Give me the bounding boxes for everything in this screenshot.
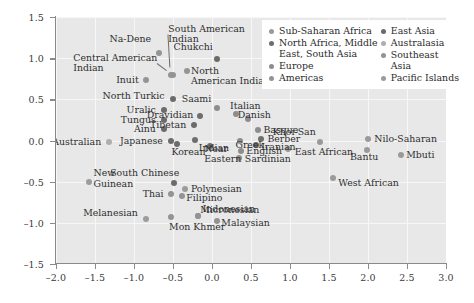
data-point-label: Danish: [238, 110, 271, 120]
x-axis-tick: [290, 264, 291, 269]
legend-entry: East Asia: [381, 25, 460, 36]
x-axis-tick-label: –1.5: [85, 272, 105, 283]
x-axis-tick: [56, 264, 57, 269]
y-axis-tick-label: –1.0: [14, 217, 44, 228]
y-axis-tick-label: 0.5: [14, 94, 44, 105]
legend-entry: Southeast Asia: [381, 49, 460, 71]
y-axis-tick: [50, 223, 55, 224]
x-axis-tick-label: 1.0: [282, 272, 297, 283]
x-axis-tick-label: 1.5: [321, 272, 336, 283]
legend-entry-label: Pacific Islands: [391, 72, 459, 83]
legend-entry-label: East Asia: [391, 25, 435, 36]
y-axis-tick-label: –1.5: [14, 259, 44, 270]
scatter-plot-figure: Na-DeneSouth American IndianCentral Amer…: [0, 0, 474, 303]
legend-entry: North Africa, Middle East, South Asia: [269, 37, 381, 59]
data-point: [143, 77, 149, 83]
x-axis-tick: [212, 264, 213, 269]
y-axis-tick: [50, 99, 55, 100]
data-point-label: Ainu: [134, 124, 156, 134]
data-point-label: Central American Indian: [73, 53, 157, 73]
legend-entry-label: Europe: [279, 60, 314, 71]
legend-entry: Pacific Islands: [381, 72, 460, 83]
data-point: [106, 139, 112, 145]
data-point-label: Australian: [56, 137, 101, 147]
legend-swatch-icon: [381, 76, 386, 81]
data-point: [365, 136, 371, 142]
data-point: [214, 105, 220, 111]
data-point: [192, 137, 198, 143]
data-point: [398, 152, 404, 158]
data-point-label: North American Indian: [191, 66, 270, 86]
x-axis-tick: [251, 264, 252, 269]
data-point-label: Mbuti: [406, 149, 434, 159]
label-leader-line: [157, 63, 167, 71]
data-point-label: Japanese: [120, 135, 163, 145]
legend-swatch-icon: [381, 29, 386, 34]
legend-entry: Americas: [269, 72, 381, 83]
data-point-label: East African: [295, 147, 353, 157]
y-axis-tick-label: 1.5: [14, 12, 44, 23]
y-axis-tick: [50, 182, 55, 183]
legend-swatch-icon: [269, 64, 274, 69]
data-point-label: Nilo-Saharan: [374, 134, 437, 144]
x-axis-tick: [407, 264, 408, 269]
y-axis-tick: [50, 141, 55, 142]
x-axis-tick: [173, 264, 174, 269]
data-point: [179, 193, 185, 199]
x-axis-tick-label: 3.0: [438, 272, 453, 283]
data-point-label: Malaysian: [221, 218, 270, 228]
data-point: [171, 180, 177, 186]
legend-swatch-icon: [269, 41, 274, 46]
x-axis-tick: [368, 264, 369, 269]
legend-entry-label: North Africa, Middle East, South Asia: [279, 37, 378, 59]
data-point: [170, 96, 176, 102]
data-point: [143, 216, 149, 222]
data-point: [191, 122, 197, 128]
legend-entry: Sub-Saharan Africa: [269, 25, 381, 36]
data-point: [255, 127, 261, 133]
legend-entry-label: Americas: [279, 72, 323, 83]
data-point-label: North Turkic: [103, 91, 165, 101]
data-point: [197, 113, 203, 119]
data-point-label: Thai: [143, 189, 164, 199]
data-point: [317, 139, 323, 145]
data-point-label: Bantu: [350, 152, 378, 162]
data-point-label: Saami: [182, 93, 212, 103]
legend-entry-label: Australasia: [391, 37, 444, 48]
legend-column-left: Sub-Saharan AfricaNorth Africa, Middle E…: [269, 25, 381, 84]
data-point-label: Sardinian: [245, 154, 291, 164]
x-axis-tick: [329, 264, 330, 269]
legend-column-right: East AsiaAustralasiaSoutheast AsiaPacifi…: [381, 25, 460, 84]
legend: Sub-Saharan AfricaNorth Africa, Middle E…: [262, 20, 466, 89]
x-axis-tick-label: 2.5: [399, 272, 414, 283]
data-point: [168, 191, 174, 197]
data-point-label: Indonesian: [203, 204, 255, 214]
legend-entry-label: Sub-Saharan Africa: [279, 25, 372, 36]
x-axis-tick: [134, 264, 135, 269]
x-axis-tick-label: –2.0: [46, 272, 66, 283]
data-point-label: Inuit: [116, 74, 139, 84]
y-axis-line: [55, 16, 56, 265]
legend-swatch-icon: [381, 41, 386, 46]
x-axis-tick-label: 2.0: [360, 272, 375, 283]
y-axis-tick: [50, 58, 55, 59]
legend-entry-label: Southeast Asia: [391, 49, 460, 71]
data-point-label: South Chinese: [110, 168, 179, 178]
data-point-label: Chukchi: [174, 42, 213, 52]
data-point-label: Mon Khmer: [169, 222, 225, 232]
data-point: [330, 175, 336, 181]
data-point: [86, 179, 92, 185]
data-point: [168, 214, 174, 220]
data-point: [168, 138, 174, 144]
data-point-label: Na-Dene: [110, 34, 152, 44]
x-axis-tick: [95, 264, 96, 269]
data-point-label: Near Eastern: [204, 143, 241, 163]
data-point-label: Filipino: [186, 193, 222, 203]
gridline-horizontal: [56, 17, 446, 18]
y-axis-tick: [50, 17, 55, 18]
legend-entry: Australasia: [381, 37, 460, 48]
data-point: [184, 68, 190, 74]
x-axis-tick-label: –0.5: [163, 272, 183, 283]
legend-entry: Europe: [269, 60, 381, 71]
legend-swatch-icon: [269, 29, 274, 34]
